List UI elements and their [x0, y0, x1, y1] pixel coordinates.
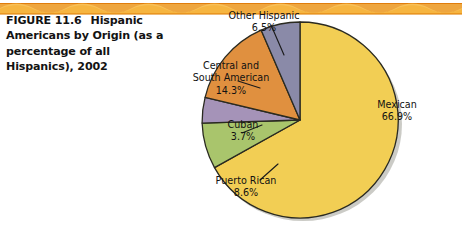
figure-caption-line2: Americans by Origin (as a	[6, 29, 163, 42]
label-puerto-rican: Puerto Rican 8.6%	[196, 175, 296, 200]
label-central-south-american-pct: 14.3%	[176, 85, 286, 97]
label-other-hispanic: Other Hispanic 6.5%	[218, 10, 310, 35]
label-mexican: Mexican 66.9%	[354, 99, 440, 124]
label-puerto-rican-pct: 8.6%	[196, 187, 296, 199]
label-mexican-pct: 66.9%	[354, 111, 440, 123]
label-central-south-american-name2: South American	[176, 72, 286, 84]
label-cuban-name: Cuban	[228, 119, 259, 130]
pie-chart: Other Hispanic 6.5% Central and South Am…	[150, 0, 462, 226]
figure-number: FIGURE 11.6	[6, 14, 82, 27]
figure-caption-line1: Hispanic	[91, 14, 143, 27]
label-other-hispanic-name: Other Hispanic	[228, 10, 299, 21]
label-cuban: Cuban 3.7%	[206, 119, 280, 144]
figure-caption-line4: 2002	[77, 60, 107, 73]
label-central-south-american: Central and South American 14.3%	[176, 60, 286, 97]
label-other-hispanic-pct: 6.5%	[218, 22, 310, 34]
label-central-south-american-name1: Central and	[203, 60, 259, 71]
label-cuban-pct: 3.7%	[206, 131, 280, 143]
figure-container: FIGURE 11.6Hispanic Americans by Origin …	[0, 0, 462, 226]
label-mexican-name: Mexican	[377, 99, 417, 110]
label-puerto-rican-name: Puerto Rican	[216, 175, 277, 186]
